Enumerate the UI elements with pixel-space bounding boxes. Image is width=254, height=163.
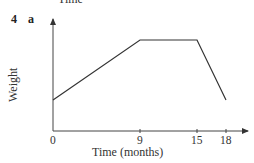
weight-series-line — [53, 40, 226, 100]
x-tick-label-18: 18 — [220, 134, 232, 146]
x-tick-label-15: 15 — [191, 134, 203, 146]
y-axis-label: Weight — [6, 68, 21, 102]
line-chart — [0, 0, 254, 163]
x-tick-label-0: 0 — [50, 134, 56, 146]
x-axis-label: Time (months) — [92, 145, 163, 160]
